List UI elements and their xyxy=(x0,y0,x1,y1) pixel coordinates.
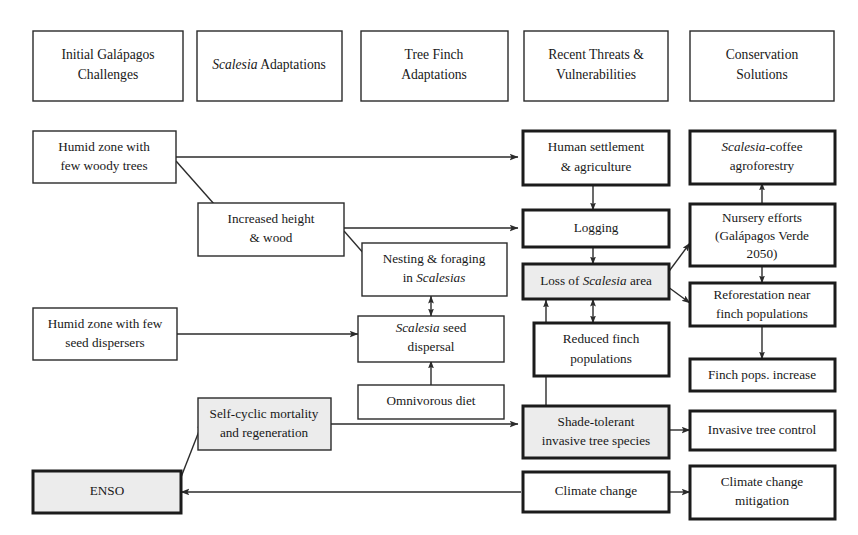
node-humid-woody-line1: Humid zone with xyxy=(58,139,150,154)
node-climate-change-mitigation-line2: mitigation xyxy=(735,493,790,508)
node-reduced-finch-populations[interactable]: Reduced finch populations xyxy=(534,323,669,376)
node-loss-scalesia-area-label: Loss of Scalesia area xyxy=(540,273,652,288)
col-scalesia-adaptations: Scalesia Adaptations xyxy=(197,31,342,101)
node-finch-pops-increase[interactable]: Finch pops. increase xyxy=(690,359,835,391)
node-nursery-efforts-line3: 2050) xyxy=(747,246,778,261)
node-shade-tolerant-invasive-line1: Shade-tolerant xyxy=(558,414,635,429)
col-tree-finch-adaptations-line1: Tree Finch xyxy=(405,47,464,62)
node-invasive-tree-control-label: Invasive tree control xyxy=(708,422,817,437)
node-nursery-efforts-line2: (Galápagos Verde xyxy=(715,228,809,243)
node-humid-seed-dispersers-line2: seed dispersers xyxy=(65,335,144,350)
node-nursery-efforts[interactable]: Nursery efforts (Galápagos Verde 2050) xyxy=(690,204,835,266)
col-initial-challenges: Initial Galápagos Challenges xyxy=(33,31,183,101)
node-humid-seed-dispersers[interactable]: Humid zone with few seed dispersers xyxy=(33,308,177,360)
col-initial-challenges-line1: Initial Galápagos xyxy=(61,47,154,62)
node-increased-height-wood[interactable]: Increased height & wood xyxy=(198,203,344,256)
node-increased-height-wood-line1: Increased height xyxy=(228,211,315,226)
node-human-settlement-line2: & agriculture xyxy=(561,159,632,174)
node-reforestation-near-finch[interactable]: Reforestation near finch populations xyxy=(690,283,835,326)
node-climate-change-label: Climate change xyxy=(555,483,638,498)
node-loss-scalesia-area[interactable]: Loss of Scalesia area xyxy=(523,264,669,299)
node-climate-change-mitigation[interactable]: Climate change mitigation xyxy=(690,466,835,519)
col-tree-finch-adaptations-box xyxy=(361,31,508,101)
node-increased-height-wood-line2: & wood xyxy=(250,230,293,245)
node-climate-change-mitigation-line1: Climate change xyxy=(721,474,804,489)
col-scalesia-adaptations-line1: Scalesia Adaptations xyxy=(212,57,326,72)
column-header-row: Initial Galápagos Challenges Scalesia Ad… xyxy=(33,31,834,101)
col-recent-threats: Recent Threats & Vulnerabilities xyxy=(524,31,668,101)
node-nesting-foraging[interactable]: Nesting & foraging in Scalesias xyxy=(362,243,507,296)
col-tree-finch-adaptations-line2: Adaptations xyxy=(401,67,467,82)
node-humid-woody[interactable]: Humid zone with few woody trees xyxy=(33,131,176,183)
node-reduced-finch-populations-line1: Reduced finch xyxy=(563,331,640,346)
node-human-settlement[interactable]: Human settlement & agriculture xyxy=(523,131,669,185)
col-conservation-solutions-line1: Conservation xyxy=(726,47,799,62)
node-enso[interactable]: ENSO xyxy=(33,471,181,513)
node-scalesia-coffee-agroforestry-line2: agroforestry xyxy=(730,158,795,173)
node-humid-woody-line2: few woody trees xyxy=(60,158,147,173)
node-self-cyclic-mortality-line2: and regeneration xyxy=(220,425,309,440)
node-enso-label: ENSO xyxy=(90,483,124,498)
node-logging[interactable]: Logging xyxy=(523,210,669,247)
col-initial-challenges-box xyxy=(33,31,183,101)
node-humid-seed-dispersers-line1: Humid zone with few xyxy=(48,316,163,331)
node-scalesia-seed-dispersal[interactable]: Scalesia seed dispersal xyxy=(358,316,504,362)
col-recent-threats-box xyxy=(524,31,668,101)
node-finch-pops-increase-label: Finch pops. increase xyxy=(708,367,816,382)
node-omnivorous-diet[interactable]: Omnivorous diet xyxy=(358,385,504,419)
node-logging-label: Logging xyxy=(574,220,619,235)
col-conservation-solutions-line2: Solutions xyxy=(736,67,787,82)
node-nursery-efforts-line1: Nursery efforts xyxy=(722,210,802,225)
node-reforestation-near-finch-line2: finch populations xyxy=(716,306,808,321)
node-nesting-foraging-line1: Nesting & foraging xyxy=(383,251,486,266)
node-climate-change[interactable]: Climate change xyxy=(523,472,669,512)
flow-diagram: Initial Galápagos Challenges Scalesia Ad… xyxy=(0,0,858,535)
node-reduced-finch-populations-line2: populations xyxy=(570,351,632,366)
node-self-cyclic-mortality-line1: Self-cyclic mortality xyxy=(210,406,319,421)
node-omnivorous-diet-label: Omnivorous diet xyxy=(386,393,475,408)
node-scalesia-coffee-agroforestry-line1: Scalesia-coffee xyxy=(721,139,802,154)
node-scalesia-seed-dispersal-line2: dispersal xyxy=(408,339,455,354)
node-self-cyclic-mortality[interactable]: Self-cyclic mortality and regeneration xyxy=(198,398,331,450)
node-scalesia-coffee-agroforestry[interactable]: Scalesia-coffee agroforestry xyxy=(690,131,835,184)
col-recent-threats-line1: Recent Threats & xyxy=(548,47,644,62)
node-shade-tolerant-invasive[interactable]: Shade-tolerant invasive tree species xyxy=(523,406,669,458)
diagram-canvas: Initial Galápagos Challenges Scalesia Ad… xyxy=(0,0,858,535)
node-invasive-tree-control[interactable]: Invasive tree control xyxy=(690,411,835,450)
col-tree-finch-adaptations: Tree Finch Adaptations xyxy=(361,31,508,101)
node-human-settlement-line1: Human settlement xyxy=(548,139,645,154)
node-nesting-foraging-line2: in Scalesias xyxy=(403,270,466,285)
col-conservation-solutions-box xyxy=(690,31,834,101)
node-reforestation-near-finch-line1: Reforestation near xyxy=(713,287,811,302)
col-initial-challenges-line2: Challenges xyxy=(78,67,138,82)
node-scalesia-seed-dispersal-line1: Scalesia seed xyxy=(396,320,467,335)
node-layer: Humid zone with few woody trees Humid zo… xyxy=(33,131,835,519)
col-conservation-solutions: Conservation Solutions xyxy=(690,31,834,101)
node-shade-tolerant-invasive-line2: invasive tree species xyxy=(542,433,650,448)
col-recent-threats-line2: Vulnerabilities xyxy=(556,67,636,82)
